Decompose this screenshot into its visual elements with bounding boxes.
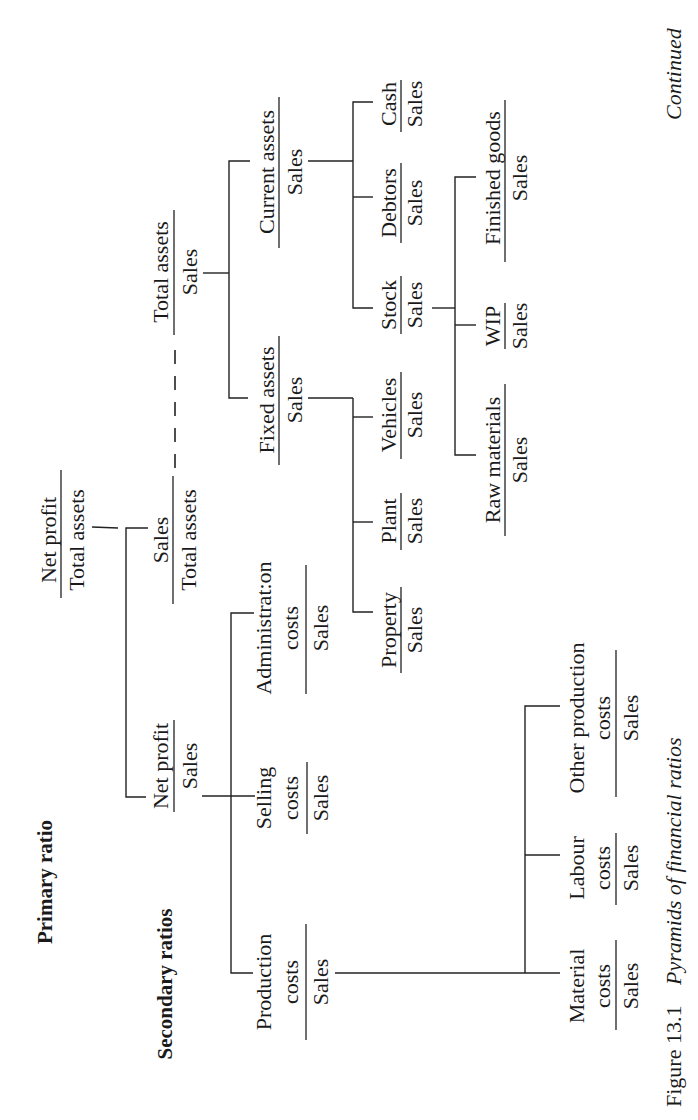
denominator: Sales bbox=[177, 249, 202, 295]
node-net-profit-total-assets: Net profit Total assets bbox=[36, 470, 89, 598]
denominator: Sales bbox=[507, 303, 532, 349]
numerator-line2: costs bbox=[278, 776, 303, 820]
node-fixed-assets-sales: Fixed assets Sales bbox=[254, 336, 307, 465]
connector bbox=[126, 528, 148, 797]
denominator: Sales bbox=[402, 498, 427, 544]
node-raw-materials-sales: Raw materials Sales bbox=[480, 384, 532, 536]
denominator: Sales bbox=[402, 81, 427, 127]
numerator-line1: Other production bbox=[564, 643, 589, 794]
numerator-line2: costs bbox=[278, 606, 303, 650]
numerator: Net profit bbox=[148, 723, 173, 809]
node-property-sales: Property Sales bbox=[376, 587, 427, 673]
numerator: Finished goods bbox=[480, 111, 505, 245]
numerator-line1: Material bbox=[564, 949, 589, 1024]
node-plant-sales: Plant Sales bbox=[376, 493, 427, 550]
denominator: Total assets bbox=[64, 489, 89, 591]
numerator: Fixed assets bbox=[254, 347, 279, 454]
secondary-ratios-heading: Secondary ratios bbox=[153, 908, 177, 1059]
node-stock-sales: Stock Sales bbox=[376, 276, 427, 334]
node-cash-sales: Cash Sales bbox=[376, 80, 427, 132]
node-finished-goods-sales: Finished goods Sales bbox=[480, 100, 532, 262]
denominator: Total assets bbox=[176, 489, 201, 591]
node-selling-costs-sales: Selling costs Sales bbox=[251, 762, 333, 834]
connector bbox=[92, 527, 118, 528]
node-labour-costs-sales: Labour costs Sales bbox=[564, 833, 643, 905]
figure-title: Pyramids of financial ratios bbox=[661, 738, 686, 987]
node-debtors-sales: Debtors Sales bbox=[376, 163, 427, 243]
numerator: Property bbox=[376, 592, 401, 668]
numerator: Plant bbox=[376, 498, 401, 543]
connector bbox=[353, 102, 373, 308]
numerator-line2: costs bbox=[590, 696, 615, 740]
denominator: Sales bbox=[507, 437, 532, 483]
node-administration-costs-sales: Administrat:on costs Sales bbox=[251, 561, 333, 694]
numerator: Vehicles bbox=[376, 378, 401, 453]
numerator-line2: costs bbox=[590, 846, 615, 890]
node-sales-total-assets: Sales Total assets bbox=[148, 476, 201, 604]
node-vehicles-sales: Vehicles Sales bbox=[376, 372, 427, 459]
connector bbox=[455, 177, 476, 455]
denominator: Sales bbox=[308, 959, 333, 1005]
numerator: Net profit bbox=[36, 497, 61, 583]
figure-caption: Figure 13.1 Pyramids of financial ratios bbox=[661, 738, 686, 1108]
primary-ratio-heading: Primary ratio bbox=[33, 820, 57, 944]
node-net-profit-sales: Net profit Sales bbox=[148, 720, 202, 812]
numerator-line2: costs bbox=[590, 964, 615, 1008]
denominator: Sales bbox=[402, 180, 427, 226]
denominator: Sales bbox=[282, 377, 307, 423]
ratio-pyramid-diagram: Primary ratio Secondary ratios Net profi… bbox=[0, 0, 698, 1120]
numerator: Stock bbox=[376, 280, 401, 330]
denominator: Sales bbox=[282, 149, 307, 195]
numerator-line1: Selling bbox=[251, 767, 276, 829]
denominator: Sales bbox=[618, 963, 643, 1009]
denominator: Sales bbox=[402, 282, 427, 328]
connector bbox=[353, 398, 373, 612]
denominator: Sales bbox=[618, 845, 643, 891]
node-total-assets-sales: Total assets Sales bbox=[148, 210, 202, 335]
node-wip-sales: WIP Sales bbox=[480, 303, 532, 349]
numerator: Total assets bbox=[148, 221, 173, 323]
numerator: Cash bbox=[376, 82, 401, 126]
numerator: WIP bbox=[480, 306, 505, 346]
denominator: Sales bbox=[177, 743, 202, 789]
numerator: Current assets bbox=[254, 110, 279, 234]
denominator: Sales bbox=[618, 695, 643, 741]
node-current-assets-sales: Current assets Sales bbox=[254, 97, 307, 248]
numerator-line1: Production bbox=[251, 934, 276, 1031]
node-production-costs-sales: Production costs Sales bbox=[251, 924, 333, 1040]
numerator: Raw materials bbox=[480, 397, 505, 523]
connector bbox=[525, 706, 560, 973]
numerator: Debtors bbox=[376, 168, 401, 238]
denominator: Sales bbox=[308, 605, 333, 651]
node-other-production-costs-sales: Other production costs Sales bbox=[564, 643, 643, 797]
numerator-line2: costs bbox=[278, 960, 303, 1004]
denominator: Sales bbox=[308, 775, 333, 821]
continued-label: Continued bbox=[661, 27, 686, 120]
connector bbox=[229, 161, 250, 398]
denominator: Sales bbox=[507, 155, 532, 201]
node-material-costs-sales: Material costs Sales bbox=[564, 940, 643, 1030]
numerator: Sales bbox=[148, 517, 173, 563]
numerator-line1: Labour bbox=[564, 836, 589, 900]
numerator-line1: Administrat:on bbox=[251, 561, 276, 694]
figure-number: Figure 13.1 bbox=[661, 1006, 686, 1107]
denominator: Sales bbox=[402, 607, 427, 653]
denominator: Sales bbox=[402, 392, 427, 438]
